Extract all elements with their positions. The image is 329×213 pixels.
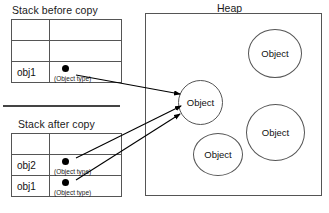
stack-before-row2-name: obj1 [12, 62, 50, 83]
heap-object-label: Object [187, 97, 214, 108]
diagram-canvas: Stack before copy obj1 (Object type) Sta… [0, 0, 329, 213]
stack-after-row2-type: (Object type) [54, 189, 91, 196]
stack-after-row1-type: (Object type) [54, 168, 91, 175]
stack-after-row1-name: obj2 [12, 155, 50, 176]
stack-after-row0-name [12, 134, 50, 155]
table-row [12, 41, 122, 62]
stack-after-row2-value: (Object type) [50, 176, 122, 197]
stack-before-caption: Stack before copy [12, 4, 98, 16]
stack-before-row0-name [12, 20, 50, 41]
stack-before-row0-value [50, 20, 122, 41]
heap-object-label: Object [262, 127, 289, 138]
table-row [12, 134, 122, 155]
reference-dot-icon [62, 65, 69, 72]
heap-object-label: Object [204, 149, 231, 160]
heap-object-shared: Object [178, 80, 223, 125]
table-row: obj1 (Object type) [12, 62, 122, 83]
stack-after-row0-value [50, 134, 122, 155]
stack-before-row2-type: (Object type) [54, 75, 91, 82]
stack-before-row2-value: (Object type) [50, 62, 122, 83]
table-row [12, 20, 122, 41]
stack-before-table: obj1 (Object type) [11, 19, 122, 83]
reference-dot-icon [62, 179, 69, 186]
heap-object-top-right: Object [248, 29, 302, 78]
stack-after-row1-value: (Object type) [50, 155, 122, 176]
stack-before-row1-name [12, 41, 50, 62]
heap-object-bottom-left: Object [193, 133, 243, 176]
stack-before-row1-value [50, 41, 122, 62]
section-divider [3, 105, 120, 107]
stack-after-table: obj2 (Object type) obj1 (Object type) [11, 133, 122, 197]
heap-object-label: Object [261, 48, 288, 59]
reference-dot-icon [62, 158, 69, 165]
table-row: obj1 (Object type) [12, 176, 122, 197]
heap-object-bottom-right: Object [246, 104, 305, 161]
stack-after-row2-name: obj1 [12, 176, 50, 197]
table-row: obj2 (Object type) [12, 155, 122, 176]
stack-after-caption: Stack after copy [18, 118, 95, 130]
